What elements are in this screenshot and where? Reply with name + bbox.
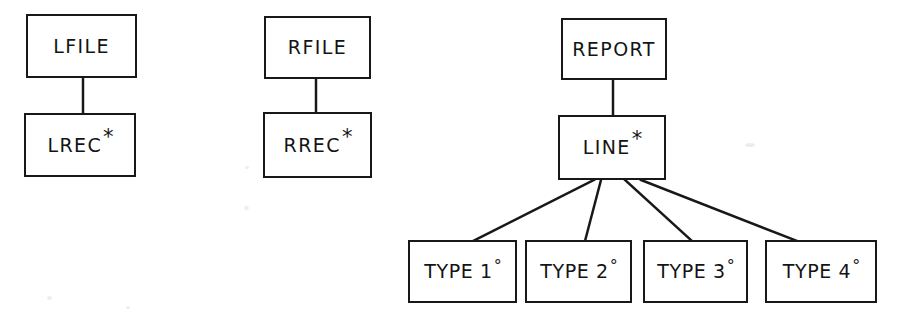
node-rrec[interactable]: RREC*: [263, 112, 372, 178]
repetition-marker: *: [632, 129, 643, 150]
node-lrec[interactable]: LREC*: [24, 113, 136, 177]
selection-marker: °: [727, 258, 735, 274]
edge-line-type4: [641, 180, 797, 241]
node-lfile[interactable]: LFILE: [26, 14, 137, 78]
repetition-marker: *: [342, 127, 353, 148]
node-report[interactable]: REPORT: [561, 18, 667, 80]
node-type4[interactable]: TYPE 4°: [765, 240, 877, 303]
edge-line-type1: [473, 180, 594, 241]
node-lfile-label: LFILE: [53, 37, 110, 56]
node-line-label: LINE*: [583, 137, 642, 158]
edge-line-type2: [585, 180, 601, 241]
selection-marker: °: [494, 258, 502, 274]
repetition-marker: *: [103, 127, 114, 148]
node-type2-label: TYPE 2°: [540, 262, 616, 281]
node-line[interactable]: LINE*: [558, 115, 666, 180]
node-type4-label: TYPE 4°: [783, 262, 859, 281]
node-rfile-label: RFILE: [288, 38, 347, 57]
node-rfile[interactable]: RFILE: [264, 16, 371, 79]
node-rrec-label: RREC*: [284, 135, 352, 156]
selection-marker: °: [852, 258, 860, 274]
node-lrec-label: LREC*: [47, 135, 112, 156]
diagram-canvas: LFILE LREC* RFILE RREC* REPORT LINE* TYP…: [0, 0, 904, 326]
node-type2[interactable]: TYPE 2°: [525, 240, 632, 303]
node-type1-label: TYPE 1°: [424, 262, 500, 281]
selection-marker: °: [610, 258, 618, 274]
node-type3[interactable]: TYPE 3°: [643, 240, 748, 303]
node-type3-label: TYPE 3°: [657, 262, 733, 281]
node-report-label: REPORT: [572, 40, 655, 59]
node-type1[interactable]: TYPE 1°: [408, 240, 517, 303]
edge-line-type3: [625, 180, 692, 241]
